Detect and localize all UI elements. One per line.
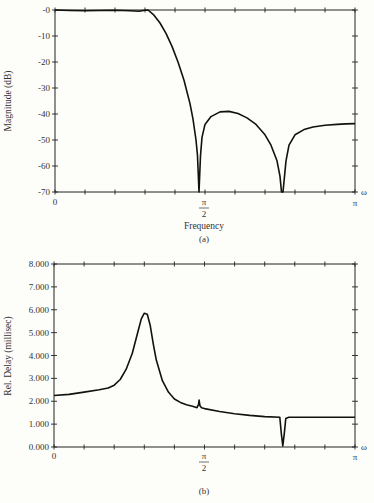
delay-chart: 0.0001.0002.0003.0004.0005.0006.0007.000…: [3, 259, 367, 496]
y-tick-label: -40: [38, 109, 50, 119]
magnitude-y-tick-labels: -0-10-20-30-40-50-60-70: [38, 5, 50, 197]
omega-symbol: ω: [361, 442, 367, 452]
delay-axes: [51, 262, 358, 450]
x-tick-zero: 0: [53, 197, 58, 207]
y-tick-label: -0: [43, 5, 51, 15]
x-tick-two: 2: [202, 209, 207, 219]
x-axis-title: Frequency: [184, 221, 224, 231]
y-tick-label: 7.000: [29, 282, 50, 292]
y-axis-title: Rel. Delay (millisec): [3, 316, 14, 395]
y-tick-label: -30: [38, 83, 50, 93]
y-tick-label: 8.000: [29, 259, 50, 269]
y-axis-title: Magnitude (dB): [3, 71, 14, 132]
magnitude-axes: [52, 8, 358, 195]
caption-a: (a): [199, 234, 209, 244]
y-tick-label: -20: [38, 57, 50, 67]
delay-y-tick-labels: 0.0001.0002.0003.0004.0005.0006.0007.000…: [29, 259, 50, 452]
y-tick-label: -70: [38, 187, 50, 197]
y-tick-label: 6.000: [29, 305, 50, 315]
caption-b: (b): [199, 486, 210, 496]
figure: -0-10-20-30-40-50-60-70 0 π 2 π ω Freque…: [0, 0, 374, 503]
y-tick-label: 3.000: [29, 373, 50, 383]
y-tick-label: 4.000: [29, 351, 50, 361]
y-tick-label: 0.000: [29, 442, 50, 452]
x-tick-two: 2: [202, 463, 207, 473]
omega-symbol: ω: [361, 187, 367, 197]
x-tick-zero: 0: [52, 451, 57, 461]
y-tick-label: 5.000: [29, 328, 50, 338]
y-tick-label: 2.000: [29, 396, 50, 406]
magnitude-curve: [55, 10, 355, 192]
x-tick-pi: π: [202, 197, 207, 207]
delay-curve: [54, 313, 355, 446]
x-tick-pi-end: π: [353, 452, 358, 462]
y-tick-label: -60: [38, 161, 50, 171]
magnitude-chart: -0-10-20-30-40-50-60-70 0 π 2 π ω Freque…: [3, 5, 367, 244]
x-tick-pi-end: π: [353, 198, 358, 208]
y-tick-label: -50: [38, 135, 50, 145]
y-tick-label: 1.000: [29, 419, 50, 429]
y-tick-label: -10: [38, 31, 50, 41]
x-tick-pi: π: [202, 451, 207, 461]
